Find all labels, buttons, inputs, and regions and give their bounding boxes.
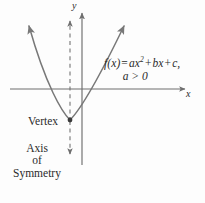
equation-plus-2: + bbox=[164, 57, 173, 69]
axis-of-symmetry-line-2-text: of bbox=[2, 154, 72, 166]
equation-term-b: bx bbox=[152, 57, 163, 69]
axis-of-symmetry-line-3-text: Symmetry bbox=[2, 167, 72, 179]
vertex-point bbox=[68, 118, 73, 123]
equation-term-a: ax bbox=[129, 57, 140, 69]
equation-equals: = bbox=[120, 57, 129, 69]
axis-of-symmetry-label: Axis of Symmetry bbox=[2, 142, 72, 179]
equation-condition: a > 0 bbox=[104, 70, 180, 82]
vertex-label: Vertex bbox=[28, 115, 58, 127]
equation-line-1: f(x)=ax2+bx+c, bbox=[104, 56, 180, 69]
equation-term-c: c, bbox=[172, 57, 180, 69]
parabola-left-branch bbox=[29, 26, 70, 120]
y-axis-label: y bbox=[72, 1, 76, 12]
axis-of-symmetry-line-1-text: Axis bbox=[2, 142, 72, 154]
parabola-figure: y x f(x)=ax2+bx+c, a > 0 Vertex Axis of … bbox=[0, 0, 205, 203]
function-equation: f(x)=ax2+bx+c, a > 0 bbox=[104, 56, 180, 83]
x-axis-label: x bbox=[186, 89, 190, 100]
equation-fx: f(x) bbox=[104, 57, 120, 69]
